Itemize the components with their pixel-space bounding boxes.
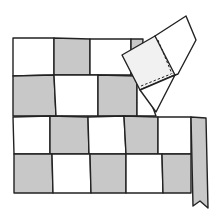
patch-gray <box>162 154 191 193</box>
patch-gray <box>124 116 158 154</box>
quilt-illustration <box>0 0 217 212</box>
row-2 <box>13 75 156 116</box>
patch-white <box>13 38 54 76</box>
patch-gray <box>50 116 89 154</box>
patch-white <box>52 154 91 193</box>
binding-strip <box>191 117 208 208</box>
row-3 <box>13 116 191 154</box>
patch-gray <box>13 75 56 116</box>
patch-white <box>13 116 50 154</box>
patch-gray <box>54 38 90 75</box>
patch-gray <box>98 75 137 116</box>
patch-white <box>88 116 126 154</box>
patch-white <box>54 75 98 116</box>
patch-white <box>158 117 191 154</box>
patch-gray <box>90 154 126 193</box>
patch-white <box>126 154 163 193</box>
quilt-diagram <box>0 0 217 212</box>
row-4 <box>14 154 191 193</box>
patch-gray <box>14 154 53 193</box>
